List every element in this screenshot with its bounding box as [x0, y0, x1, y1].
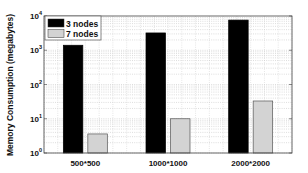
bar-3-nodes-1000*1000	[146, 33, 166, 153]
legend-swatch-3-nodes	[48, 19, 64, 27]
legend-label-7-nodes: 7 nodes	[66, 29, 98, 39]
y-tick-label: 103	[30, 44, 42, 55]
y-tick-label: 101	[30, 113, 42, 124]
y-tick-label: 100	[30, 147, 42, 158]
bar-7-nodes-1000*1000	[171, 119, 191, 153]
y-tick-label: 104	[30, 10, 43, 21]
bar-3-nodes-500*500	[63, 45, 82, 153]
x-tick-label: 2000*2000	[231, 159, 270, 168]
legend-label-3-nodes: 3 nodes	[66, 19, 98, 29]
bar-7-nodes-2000*2000	[253, 101, 273, 153]
x-axis-ticks: 500*5001000*10002000*2000	[70, 159, 270, 168]
x-tick-label: 500*500	[70, 159, 100, 168]
y-tick-label: 102	[30, 79, 42, 90]
x-tick-label: 1000*1000	[149, 159, 188, 168]
legend-swatch-7-nodes	[48, 30, 64, 38]
legend: 3 nodes 7 nodes	[45, 16, 101, 40]
bar-chart: 100101102103104 500*5001000*10002000*200…	[0, 0, 308, 173]
bar-7-nodes-500*500	[88, 134, 108, 153]
y-axis-label: Memory Consumption (megabytes)	[5, 14, 15, 156]
bar-3-nodes-2000*2000	[229, 20, 249, 153]
